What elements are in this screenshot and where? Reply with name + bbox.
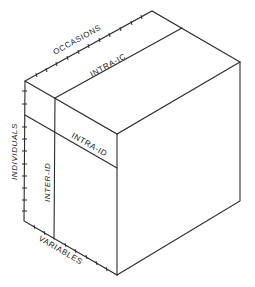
partitions	[25, 28, 182, 239]
top-face	[25, 11, 240, 134]
intra-ic-label: INTRA-IC	[89, 52, 128, 79]
data-box-diagram: OCCASIONS INTRA-IC INTRA-ID INDIVIDUALS …	[0, 0, 255, 287]
individuals-label: INDIVIDUALS	[10, 123, 19, 180]
right-face	[117, 62, 240, 275]
inter-id-line	[54, 98, 55, 239]
intra-id-line	[25, 115, 117, 168]
left-face	[24, 81, 117, 275]
inter-id-label: INTER-ID	[43, 163, 52, 202]
occasions-ticks	[36, 15, 142, 77]
variables-label: VARIABLES	[37, 234, 84, 266]
